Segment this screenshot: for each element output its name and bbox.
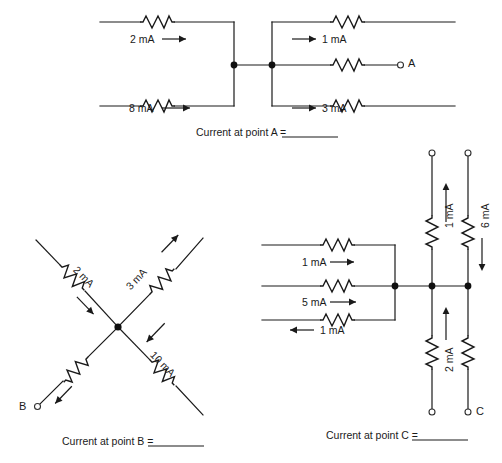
a-top-left-branch: 2 mA <box>100 16 234 65</box>
b-lower-left-branch: B <box>19 327 118 412</box>
c-top-left-arrow <box>330 259 354 266</box>
terminal-c-label: C <box>476 405 484 417</box>
a-junction-node-left <box>231 62 238 69</box>
terminal-b-label: B <box>19 400 26 412</box>
b-upper-left-arrow <box>74 295 96 317</box>
c-lower-inner-terminal <box>429 409 435 415</box>
c-bottom-left-arrow <box>290 327 314 334</box>
terminal-b-circle <box>35 404 41 410</box>
a-bottom-right-branch: 3 mA <box>272 100 455 114</box>
a-bottom-left-branch: 8 mA <box>100 65 234 114</box>
c-middle-left-branch: 5 mA <box>262 280 395 308</box>
circuit-a: 2 mA 8 mA 1 mA <box>100 16 455 138</box>
a-top-right-arrow <box>292 36 316 43</box>
b-junction-node <box>114 323 121 330</box>
b-lower-right-arrow <box>144 321 167 344</box>
b-lower-right-label: 10 mA <box>148 349 178 379</box>
circuit-diagram-canvas: 2 mA 8 mA 1 mA <box>0 0 502 463</box>
a-middle-right-branch: A <box>272 57 416 71</box>
caption-c: Current at point C = <box>326 429 418 441</box>
c-upper-outer-arrow <box>479 238 486 271</box>
c-top-left-label: 1 mA <box>302 256 327 268</box>
c-bottom-left-label: 1 mA <box>320 324 345 336</box>
c-inner-column: 1 mA 2 mA <box>426 150 455 415</box>
circuit-b: 2 mA 3 mA <box>19 233 204 447</box>
c-upper-outer-terminal <box>465 150 471 156</box>
caption-b: Current at point B = <box>62 435 153 447</box>
a-top-left-label: 2 mA <box>130 33 155 45</box>
b-upper-left-branch: 2 mA <box>36 240 118 327</box>
c-junction-node-mid <box>429 283 436 290</box>
caption-a: Current at point A = <box>196 126 286 138</box>
a-top-left-arrow <box>162 36 186 43</box>
b-upper-right-branch: 3 mA <box>118 233 203 327</box>
c-junction-node-right <box>465 283 472 290</box>
b-upper-right-label: 3 mA <box>123 266 149 292</box>
c-lower-inner-arrow <box>443 307 450 340</box>
c-top-left-branch: 1 mA <box>262 239 395 268</box>
c-upper-outer-label: 6 mA <box>479 203 491 228</box>
b-lower-left-arrow <box>53 384 75 406</box>
terminal-c-circle <box>465 409 471 415</box>
c-lower-inner-label: 2 mA <box>443 347 455 372</box>
c-middle-left-arrow <box>330 299 356 306</box>
b-lower-right-branch: 10 mA <box>118 321 203 415</box>
terminal-a-circle <box>398 62 404 68</box>
a-junction-node-right <box>269 62 276 69</box>
c-junction-node-left <box>392 283 399 290</box>
circuit-c: 1 mA 5 mA 1 mA <box>262 150 491 441</box>
a-top-right-branch: 1 mA <box>272 16 455 45</box>
c-upper-inner-label: 1 mA <box>443 203 455 228</box>
a-top-right-label: 1 mA <box>322 33 347 45</box>
c-middle-left-label: 5 mA <box>302 296 327 308</box>
a-bottom-right-label: 3 mA <box>322 102 347 114</box>
b-upper-right-arrow <box>159 233 181 255</box>
c-upper-inner-terminal <box>429 150 435 156</box>
terminal-a-label: A <box>408 57 416 69</box>
a-bottom-left-label: 8 mA <box>129 102 154 114</box>
worksheet-sheet: 2 mA 8 mA 1 mA <box>0 0 502 463</box>
c-bottom-left-branch: 1 mA <box>262 314 395 336</box>
